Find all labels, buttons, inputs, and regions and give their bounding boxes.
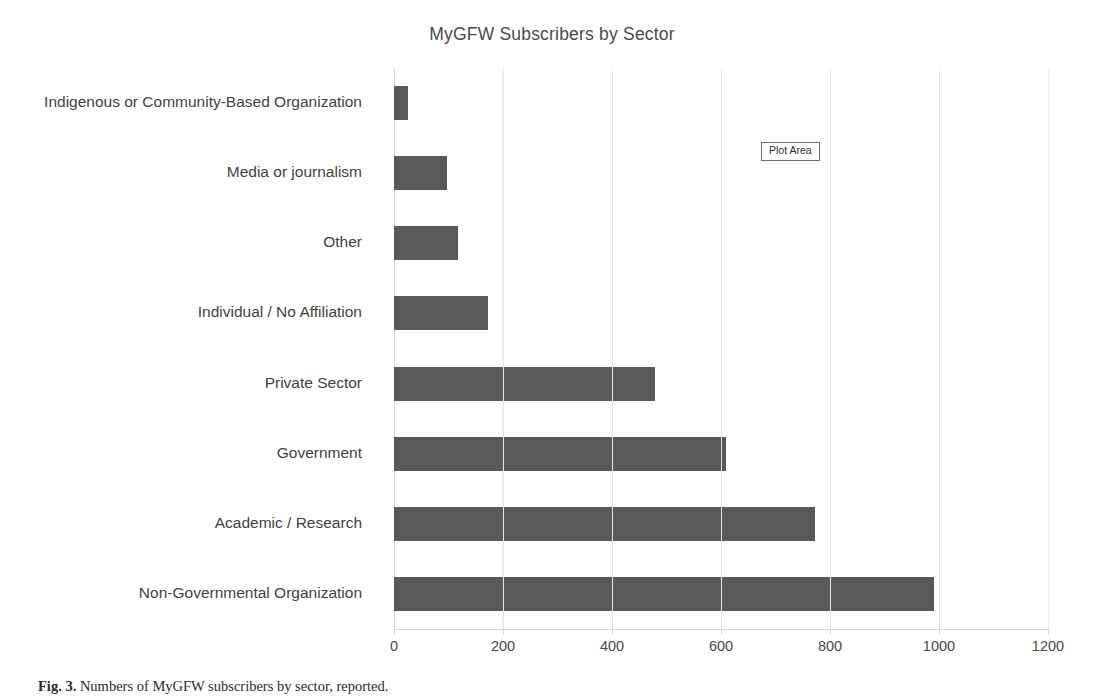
bar[interactable] xyxy=(394,507,815,541)
tick-mark-400 xyxy=(612,629,613,635)
category-label: Individual / No Affiliation xyxy=(0,303,378,321)
plot-area-tooltip: Plot Area xyxy=(761,142,820,161)
bar[interactable] xyxy=(394,86,408,120)
x-tick-label: 400 xyxy=(582,638,642,654)
bar[interactable] xyxy=(394,156,447,190)
tick-mark-200 xyxy=(503,629,504,635)
bar[interactable] xyxy=(394,367,655,401)
bar[interactable] xyxy=(394,296,488,330)
gridline-600 xyxy=(721,68,722,629)
category-label: Media or journalism xyxy=(0,163,378,181)
x-tick-label: 1200 xyxy=(1018,638,1078,654)
chart-title: MyGFW Subscribers by Sector xyxy=(0,24,1104,45)
x-tick-label: 200 xyxy=(473,638,533,654)
x-tick-label: 800 xyxy=(800,638,860,654)
gridline-1200 xyxy=(1048,68,1049,629)
category-label: Indigenous or Community-Based Organizati… xyxy=(0,93,378,111)
x-tick-label: 0 xyxy=(364,638,424,654)
tick-mark-600 xyxy=(721,629,722,635)
gridline-1000 xyxy=(939,68,940,629)
gridline-800 xyxy=(830,68,831,629)
x-tick-label: 600 xyxy=(691,638,751,654)
tick-mark-1000 xyxy=(939,629,940,635)
category-label: Private Sector xyxy=(0,374,378,392)
tick-mark-0 xyxy=(394,629,395,635)
category-label: Other xyxy=(0,233,378,251)
category-label: Non-Governmental Organization xyxy=(0,584,378,602)
bar[interactable] xyxy=(394,437,726,471)
gridline-400 xyxy=(612,68,613,629)
figure-caption: Fig. 3. Numbers of MyGFW subscribers by … xyxy=(38,678,1068,695)
figure-container: MyGFW Subscribers by Sector Indigenous o… xyxy=(0,0,1104,698)
figure-caption-number: Fig. 3. xyxy=(38,678,76,694)
bar[interactable] xyxy=(394,577,934,611)
tick-mark-800 xyxy=(830,629,831,635)
category-label: Academic / Research xyxy=(0,514,378,532)
bar[interactable] xyxy=(394,226,458,260)
category-label: Government xyxy=(0,444,378,462)
tick-mark-1200 xyxy=(1048,629,1049,635)
x-tick-label: 1000 xyxy=(909,638,969,654)
figure-caption-text: Numbers of MyGFW subscribers by sector, … xyxy=(80,678,388,694)
gridline-200 xyxy=(503,68,504,629)
